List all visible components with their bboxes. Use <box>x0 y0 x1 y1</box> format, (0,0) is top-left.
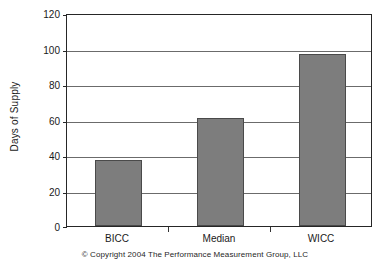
y-tick-label: 20 <box>49 186 60 197</box>
y-tick-label: 120 <box>43 9 60 20</box>
y-tick-label: 80 <box>49 80 60 91</box>
y-axis-tick-labels: 020406080100120 <box>26 14 60 227</box>
y-tick-label: 100 <box>43 44 60 55</box>
bar <box>197 118 244 226</box>
x-tick-label: WICC <box>308 233 335 244</box>
bar-chart-figure: Days of Supply 020406080100120 BICCMedia… <box>0 0 390 265</box>
x-tick-label: BICC <box>105 233 129 244</box>
x-axis-ticks <box>66 227 372 232</box>
bar <box>95 160 142 226</box>
copyright-caption: © Copyright 2004 The Performance Measure… <box>0 250 390 259</box>
x-tick-label: Median <box>203 233 236 244</box>
y-axis-title: Days of Supply <box>2 0 26 232</box>
y-axis-title-label: Days of Supply <box>9 81 20 151</box>
bar-series <box>67 15 371 226</box>
y-tick-label: 40 <box>49 151 60 162</box>
y-tick-label: 60 <box>49 115 60 126</box>
plot-area <box>66 14 372 227</box>
x-axis-tick-labels: BICCMedianWICC <box>66 233 372 247</box>
x-axis-tick <box>168 227 169 232</box>
bar <box>299 54 346 226</box>
x-axis-tick <box>270 227 271 232</box>
y-tick-label: 0 <box>54 222 60 233</box>
